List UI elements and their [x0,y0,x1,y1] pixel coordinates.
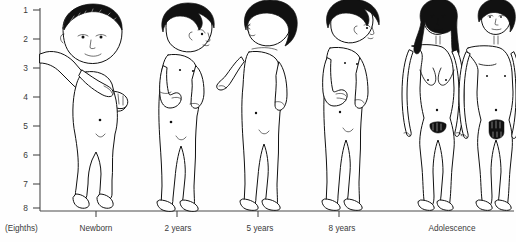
figure-adolescent-male [0,0,516,242]
adolescent-male-arm-left [459,52,470,138]
adolescent-male-nipple-left [486,75,488,77]
adolescent-male-pupil-right [500,16,502,18]
adolescent-male-pupil-left [489,16,491,18]
adolescent-male-nipple-right [504,75,506,77]
adolescent-male-foot-right [495,200,511,210]
adolescent-male-neck-lines [494,36,498,44]
adolescent-male-navel [495,109,497,111]
adolescent-male-genital [489,120,504,139]
body-proportions-chart: 1 2 3 4 5 6 7 8 (Eighths) Newborn 2 year… [0,0,516,242]
